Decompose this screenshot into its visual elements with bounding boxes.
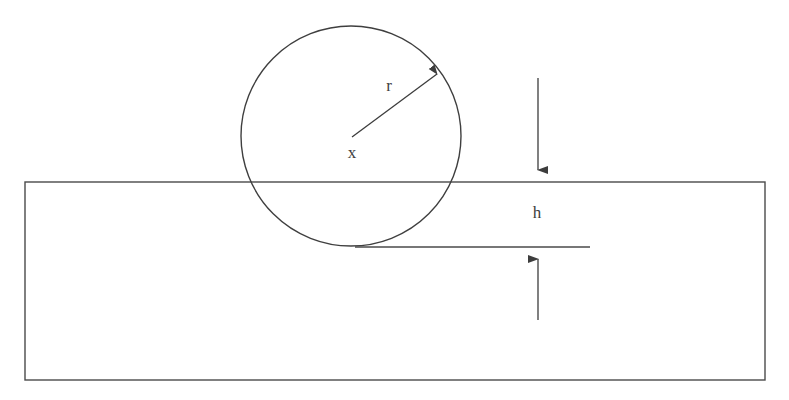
diagram-canvas: r x h xyxy=(0,0,789,400)
radius-label: r xyxy=(386,77,392,94)
radius-arrow xyxy=(352,74,437,137)
height-label: h xyxy=(533,204,542,221)
indenter-circle xyxy=(241,26,461,246)
plate-rectangle xyxy=(25,182,765,380)
diagram-drawing xyxy=(0,0,789,400)
center-label: x xyxy=(348,144,357,161)
